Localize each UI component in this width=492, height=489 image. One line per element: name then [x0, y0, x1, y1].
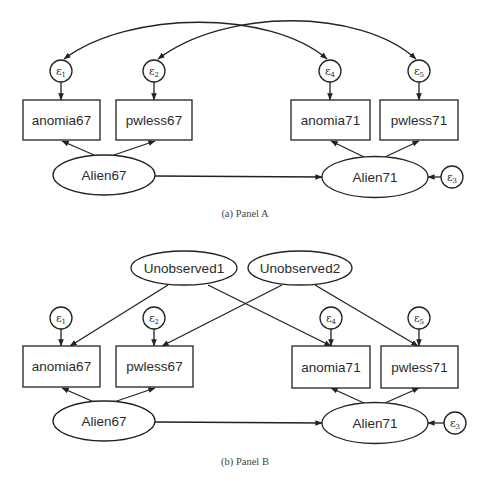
path-alien67-alien71-b: [155, 422, 322, 423]
svg-text:Alien71: Alien71: [352, 416, 397, 431]
observed-anomia67-b: anomia67: [23, 346, 100, 387]
latent-unobserved1: Unobserved1: [131, 251, 237, 285]
svg-text:pwless67: pwless67: [126, 113, 182, 128]
svg-text:Alien71: Alien71: [352, 170, 397, 185]
error-e5: ε5: [408, 60, 430, 82]
caption-panel-a: (a) Panel A: [221, 208, 269, 220]
svg-text:Alien67: Alien67: [81, 168, 126, 183]
error-e4-b: ε4: [320, 307, 342, 329]
svg-text:Unobserved1: Unobserved1: [144, 261, 224, 276]
observed-anomia71: anomia71: [291, 100, 370, 140]
covariance-e2-e5: [158, 21, 416, 59]
error-e3-b: ε3: [444, 412, 466, 434]
panel-a: ε1 ε2 ε4 ε5 ε3 anomia67 pwless67: [23, 21, 463, 220]
latent-alien67-b: Alien67: [53, 401, 155, 441]
observed-pwless67-b: pwless67: [116, 346, 193, 387]
observed-anomia67: anomia67: [23, 100, 100, 140]
observed-pwless71: pwless71: [380, 100, 458, 140]
path-alien67-anomia67-b: [62, 388, 94, 402]
error-e1-b: ε1: [50, 307, 72, 329]
covariance-e1-e4: [64, 22, 327, 59]
error-e4: ε4: [319, 60, 341, 82]
observed-anomia71-b: anomia71: [292, 346, 370, 388]
latent-alien67: Alien67: [53, 155, 155, 195]
panel-b: Unobserved1 Unobserved2 ε1 ε2 ε4 ε5 ε3: [23, 251, 466, 468]
sem-diagram-figure: ε1 ε2 ε4 ε5 ε3 anomia67 pwless67: [0, 0, 492, 489]
path-unobserved2-pwless67: [162, 285, 282, 346]
path-alien67-alien71: [155, 176, 322, 177]
path-unobserved1-anomia71: [208, 285, 331, 346]
svg-text:Alien67: Alien67: [81, 414, 126, 429]
error-e5-b: ε5: [408, 307, 430, 329]
path-alien67-pwless67: [114, 141, 155, 155]
error-e2-b: ε2: [143, 307, 165, 329]
path-alien67-pwless67-b: [114, 388, 155, 402]
svg-text:anomia71: anomia71: [301, 113, 360, 128]
path-alien67-anomia67: [62, 141, 94, 155]
latent-alien71: Alien71: [322, 157, 428, 198]
path-alien71-anomia71: [331, 141, 364, 157]
svg-text:pwless71: pwless71: [391, 113, 447, 128]
path-alien71-anomia71-b: [331, 388, 364, 403]
error-e1: ε1: [50, 60, 72, 82]
svg-text:anomia71: anomia71: [301, 360, 360, 375]
error-e3: ε3: [441, 166, 463, 188]
error-e2: ε2: [143, 60, 165, 82]
observed-pwless67: pwless67: [116, 100, 192, 140]
svg-text:anomia67: anomia67: [32, 359, 91, 374]
svg-text:anomia67: anomia67: [32, 113, 91, 128]
svg-text:pwless67: pwless67: [126, 359, 182, 374]
svg-text:Unobserved2: Unobserved2: [260, 261, 340, 276]
caption-panel-b: (b) Panel B: [221, 456, 269, 468]
latent-alien71-b: Alien71: [322, 403, 428, 444]
path-alien71-pwless71-b: [385, 388, 419, 403]
latent-unobserved2: Unobserved2: [248, 251, 352, 285]
path-alien71-pwless71: [385, 141, 419, 157]
observed-pwless71-b: pwless71: [381, 346, 458, 388]
svg-text:pwless71: pwless71: [391, 360, 447, 375]
